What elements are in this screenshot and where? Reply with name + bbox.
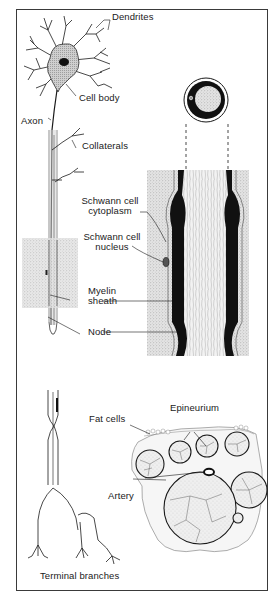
- label-dendrites: Dendrites: [112, 12, 154, 22]
- label-fat-cells: Fat cells: [89, 414, 125, 424]
- label-schwann-cytoplasm-line2: cytoplasm: [78, 206, 142, 216]
- label-axon: Axon: [21, 116, 43, 126]
- projection-lines: [186, 124, 228, 170]
- label-collaterals: Collaterals: [82, 141, 128, 151]
- label-terminal-branches: Terminal branches: [40, 571, 119, 581]
- cell-nucleus: [59, 58, 69, 66]
- label-schwann-cytoplasm: Schwann cell cytoplasm: [78, 196, 142, 216]
- neuron-diagram: Dendrites Cell body Axon Collaterals Sch…: [0, 0, 279, 599]
- label-node: Node: [88, 327, 111, 337]
- diagram-artwork: [0, 0, 279, 599]
- label-myelin-sheath: Myelin sheath: [88, 286, 117, 306]
- label-epineurium: Epineurium: [170, 403, 219, 413]
- label-artery: Artery: [108, 491, 134, 501]
- enlarged-region-box: [22, 238, 78, 308]
- cell-body: [47, 44, 79, 92]
- label-schwann-nucleus-line2: nucleus: [80, 242, 144, 252]
- axon-cross-section: [184, 78, 228, 122]
- label-myelin-line2: sheath: [88, 296, 117, 306]
- myelinated-axon-enlarged: [147, 170, 249, 356]
- label-cell-body: Cell body: [79, 93, 120, 103]
- label-schwann-nucleus: Schwann cell nucleus: [80, 232, 144, 252]
- nerve-cross-section: [132, 425, 267, 552]
